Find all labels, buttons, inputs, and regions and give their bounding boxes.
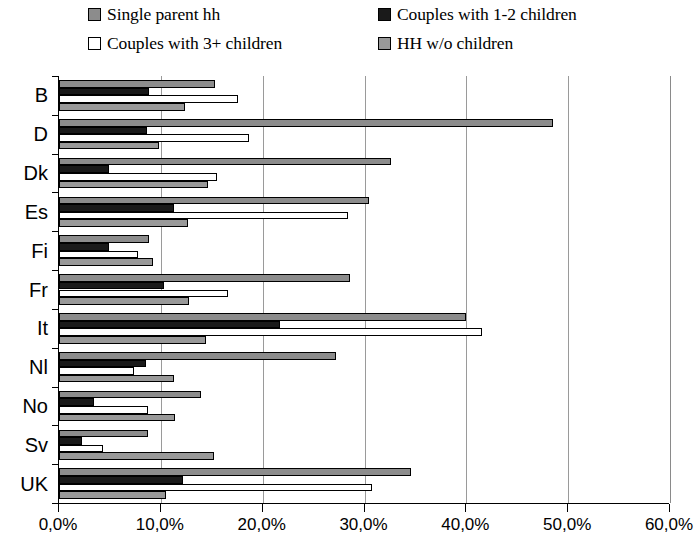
x-axis-label-50,0%: 50,0% [543,516,591,533]
y-axis-tick [52,192,59,193]
gridline-20,0% [263,76,264,503]
y-axis-label-es: Es [25,202,48,222]
y-axis-tick [52,387,59,388]
bar-dk-series-2 [59,173,217,181]
bar-es-series-3 [59,219,188,227]
bar-d-series-3 [59,142,159,150]
bar-it-series-3 [59,336,206,344]
gridline-30,0% [365,76,366,503]
bar-fr-series-2 [59,290,228,298]
bar-es-series-1 [59,204,174,212]
bar-no-series-2 [59,406,148,414]
y-axis-tick [52,154,59,155]
bar-fr-series-3 [59,297,189,305]
bar-uk-series-3 [59,491,166,499]
x-axis-tick-labels: 0,0%10,0%20,0%30,0%40,0%50,0%60,0% [0,516,697,543]
bar-uk-series-2 [59,484,372,492]
x-axis-label-40,0%: 40,0% [441,516,489,533]
x-axis-label-60,0%: 60,0% [645,516,693,533]
y-axis-label-fr: Fr [29,280,48,300]
y-axis-label-fi: Fi [31,241,48,261]
bar-es-series-0 [59,197,369,205]
bar-nl-series-3 [59,375,174,383]
bar-nl-series-1 [59,360,146,368]
y-axis-label-dk: Dk [24,163,48,183]
x-axis-ticks [58,504,669,514]
bar-dk-series-0 [59,158,391,166]
x-axis-tick-40,0% [465,504,466,512]
bar-nl-series-0 [59,352,336,360]
y-axis-tick [52,309,59,310]
y-axis-category-labels: BDDkEsFiFrItNlNoSvUK [0,76,58,504]
bar-sv-series-2 [59,445,103,453]
x-axis-label-10,0%: 10,0% [136,516,184,533]
x-axis-tick-20,0% [262,504,263,512]
bar-b-series-0 [59,80,215,88]
x-axis-tick-60,0% [669,504,670,512]
x-axis-tick-30,0% [364,504,365,512]
bar-b-series-3 [59,103,185,111]
y-axis-tick [52,115,59,116]
y-axis-tick [52,76,59,77]
y-axis-tick [52,348,59,349]
bar-it-series-1 [59,321,280,329]
bar-es-series-2 [59,212,348,220]
y-axis-label-d: D [34,124,48,144]
gridline-50,0% [568,76,569,503]
y-axis-tick [52,464,59,465]
bar-it-series-2 [59,328,482,336]
y-axis-tick [52,231,59,232]
y-axis-label-sv: Sv [25,435,48,455]
bar-fi-series-0 [59,235,149,243]
bar-no-series-3 [59,414,175,422]
gridline-40,0% [466,76,467,503]
bar-fi-series-1 [59,243,109,251]
bar-dk-series-1 [59,165,109,173]
y-axis-label-it: It [37,318,48,338]
y-axis-tick [52,425,59,426]
bar-no-series-1 [59,398,94,406]
bar-sv-series-3 [59,452,214,460]
bar-it-series-0 [59,313,466,321]
x-axis-label-0,0%: 0,0% [39,516,78,533]
y-axis-tick [52,270,59,271]
bar-fr-series-1 [59,282,164,290]
x-axis-tick-50,0% [567,504,568,512]
bar-b-series-1 [59,88,149,96]
x-axis-label-30,0%: 30,0% [339,516,387,533]
y-axis-label-nl: Nl [29,357,48,377]
plot-area [58,76,669,504]
x-axis-tick-10,0% [160,504,161,512]
y-axis-label-uk: UK [20,474,48,494]
gridline-60,0% [670,76,671,503]
bar-sv-series-1 [59,437,82,445]
x-axis-tick-0,0% [58,504,59,512]
bar-fr-series-0 [59,274,350,282]
bar-uk-series-0 [59,468,411,476]
bar-nl-series-2 [59,367,134,375]
bar-d-series-0 [59,119,553,127]
bar-no-series-0 [59,391,201,399]
bar-fi-series-2 [59,251,138,259]
bar-d-series-1 [59,127,147,135]
y-axis-label-b: B [35,85,48,105]
y-axis-label-no: No [22,396,48,416]
bar-uk-series-1 [59,476,183,484]
bar-sv-series-0 [59,430,148,438]
bar-d-series-2 [59,134,249,142]
x-axis-label-20,0%: 20,0% [238,516,286,533]
bar-b-series-2 [59,95,238,103]
bar-fi-series-3 [59,258,153,266]
bar-dk-series-3 [59,181,208,189]
bar-chart: BDDkEsFiFrItNlNoSvUK 0,0%10,0%20,0%30,0%… [0,0,697,543]
